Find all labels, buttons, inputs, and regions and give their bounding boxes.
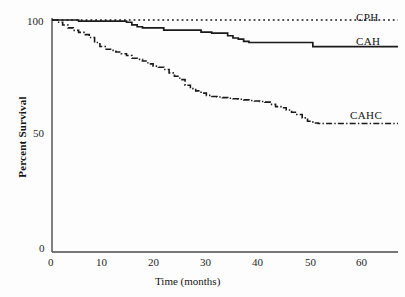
x-tick-label-10: 10: [96, 256, 107, 268]
series-label-cahc: CAHC: [350, 109, 382, 121]
y-tick-label-0: 0: [39, 242, 45, 254]
series-label-cah: CAH: [356, 35, 380, 47]
y-tick-label-100: 100: [27, 15, 44, 27]
chart-plot-area: [0, 0, 405, 297]
x-tick-label-0: 0: [48, 256, 54, 268]
x-tick-label-50: 50: [305, 256, 316, 268]
x-tick-label-30: 30: [200, 256, 211, 268]
x-tick-label-60: 60: [356, 256, 367, 268]
y-axis-title: Percent Survival: [16, 87, 28, 187]
survival-chart-figure: 100 50 0 0 10 20 30 40 50 60 Percent Sur…: [0, 0, 405, 297]
y-tick-label-50: 50: [33, 127, 44, 139]
x-tick-label-20: 20: [148, 256, 159, 268]
series-line-cahc: [52, 20, 398, 124]
x-axis-title: Time (months): [155, 275, 220, 287]
x-tick-label-40: 40: [252, 256, 263, 268]
series-line-cah: [52, 20, 398, 47]
series-label-cph: CPH: [356, 11, 379, 23]
